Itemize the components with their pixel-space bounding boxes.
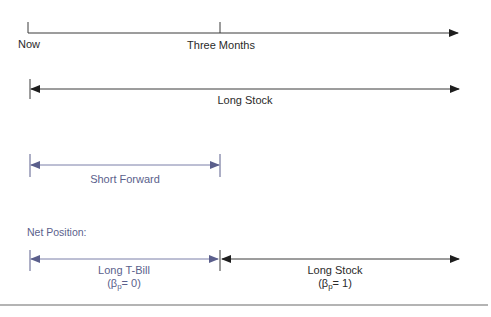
- net-long-tbill-label: Long T-Bill (βp= 0): [98, 264, 150, 293]
- label-short-forward: Short Forward: [90, 173, 160, 186]
- label-three-months: Three Months: [187, 39, 255, 52]
- net-long-stock-title: Long Stock: [307, 264, 362, 277]
- net-long-stock-beta: (βp= 1): [307, 277, 362, 293]
- label-long-stock: Long Stock: [217, 94, 272, 107]
- timeline-axis: [28, 22, 458, 33]
- net-position-heading: Net Position:: [27, 226, 87, 239]
- net-long-stock-label: Long Stock (βp= 1): [307, 264, 362, 293]
- net-long-tbill-title: Long T-Bill: [98, 264, 150, 277]
- net-long-tbill-beta: (βp= 0): [98, 277, 150, 293]
- label-now: Now: [18, 38, 40, 51]
